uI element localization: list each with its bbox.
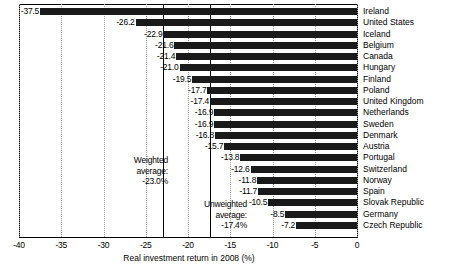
- bar-value-label: -22.9: [122, 29, 162, 40]
- bar-value-label: -13.8: [199, 152, 239, 163]
- category-label: Poland: [363, 85, 389, 96]
- bar-value-label: -17.7: [166, 85, 206, 96]
- x-tick-label: -40: [0, 240, 39, 250]
- x-tick-label: -35: [41, 240, 81, 250]
- bar-row: -16.8: [19, 130, 358, 141]
- x-tick-label: -10: [253, 240, 293, 250]
- category-label: Spain: [363, 186, 385, 197]
- bar-row: -16.9: [19, 107, 358, 118]
- bar-value-label: -19.5: [151, 74, 191, 85]
- bar: [257, 177, 357, 184]
- annotation-line: -17.4%: [0, 220, 247, 231]
- x-tick-label: -20: [168, 240, 208, 250]
- category-label: Czech Republic: [363, 220, 423, 231]
- annotation-line: Weighted: [0, 155, 168, 166]
- x-tick-label: -15: [210, 240, 250, 250]
- annotation-line: -23.0%: [0, 176, 168, 187]
- category-label: Ireland: [363, 6, 389, 17]
- bar-value-label: -7.2: [255, 220, 295, 231]
- category-label: Germany: [363, 209, 398, 220]
- bar-row: -37.5: [19, 6, 358, 17]
- bar-value-label: -12.6: [210, 164, 250, 175]
- bar-row: -17.7: [19, 85, 358, 96]
- category-label: Netherlands: [363, 107, 409, 118]
- bar-value-label: -21.6: [133, 40, 173, 51]
- bar: [192, 76, 357, 83]
- annotation-line: Unweighted: [0, 199, 247, 210]
- category-label: Slovak Republic: [363, 197, 424, 208]
- category-label: Denmark: [363, 130, 397, 141]
- bar: [224, 143, 357, 150]
- category-label: Austria: [363, 141, 389, 152]
- bar-value-label: -11.8: [216, 175, 256, 186]
- category-label: Iceland: [363, 29, 390, 40]
- bar: [180, 64, 357, 71]
- bar: [285, 211, 357, 218]
- bar: [240, 154, 357, 161]
- annotation-line: average:: [0, 166, 168, 177]
- bar-value-label: -16.9: [173, 107, 213, 118]
- bar: [136, 19, 357, 26]
- category-label: Portugal: [363, 152, 395, 163]
- bar: [176, 53, 357, 60]
- bar-value-label: -26.2: [95, 17, 135, 28]
- category-label: Hungary: [363, 62, 395, 73]
- x-tick-label: -25: [126, 240, 166, 250]
- bar-row: -22.9: [19, 29, 358, 40]
- bar-row: -17.4: [19, 96, 358, 107]
- bar-value-label: -21.4: [135, 51, 175, 62]
- bar-row: -15.7: [19, 141, 358, 152]
- weighted-average-label: Weightedaverage:-23.0%: [0, 155, 168, 187]
- bar-row: -21.4: [19, 51, 358, 62]
- bar: [40, 8, 357, 15]
- bar-value-label: -15.7: [183, 141, 223, 152]
- bar: [258, 188, 357, 195]
- bar-value-label: -17.4: [169, 96, 209, 107]
- bar: [268, 199, 357, 206]
- category-label: Canada: [363, 51, 393, 62]
- x-tick-label: -5: [295, 240, 335, 250]
- bar: [251, 166, 357, 173]
- x-axis-line: [19, 237, 358, 238]
- bar: [207, 87, 357, 94]
- chart-figure: -37.5-26.2-22.9-21.6-21.4-21.0-19.5-17.7…: [0, 0, 458, 273]
- category-label: Norway: [363, 175, 392, 186]
- bar: [210, 98, 357, 105]
- bar-row: -21.6: [19, 40, 358, 51]
- category-label: Switzerland: [363, 164, 407, 175]
- unweighted-average-label: Unweightedaverage:-17.4%: [0, 199, 247, 231]
- bar-row: -26.2: [19, 17, 358, 28]
- bar-row: -11.7: [19, 186, 358, 197]
- category-label: United Kingdom: [363, 96, 423, 107]
- bar-value-label: -8.5: [244, 209, 284, 220]
- x-axis-label: Real investment return in 2008 (%): [0, 253, 378, 263]
- bar-value-label: -21.0: [139, 62, 179, 73]
- x-tick-label: -30: [84, 240, 124, 250]
- bar: [214, 109, 357, 116]
- bar: [163, 31, 357, 38]
- bar-row: -16.9: [19, 119, 358, 130]
- bar: [214, 121, 357, 128]
- category-label: Finland: [363, 74, 391, 85]
- bar-value-label: -37.5: [0, 6, 39, 17]
- bar-row: -19.5: [19, 74, 358, 85]
- category-label: Sweden: [363, 119, 394, 130]
- bar-value-label: -11.7: [217, 186, 257, 197]
- x-tick-label: 0: [337, 240, 377, 250]
- bar: [296, 222, 357, 229]
- annotation-line: average:: [0, 210, 247, 221]
- category-label: Belgium: [363, 40, 394, 51]
- bar-row: -21.0: [19, 62, 358, 73]
- category-label: United States: [363, 17, 414, 28]
- bar-value-label: -16.9: [173, 119, 213, 130]
- bar: [174, 42, 357, 49]
- bar-value-label: -16.8: [174, 130, 214, 141]
- bar: [215, 132, 357, 139]
